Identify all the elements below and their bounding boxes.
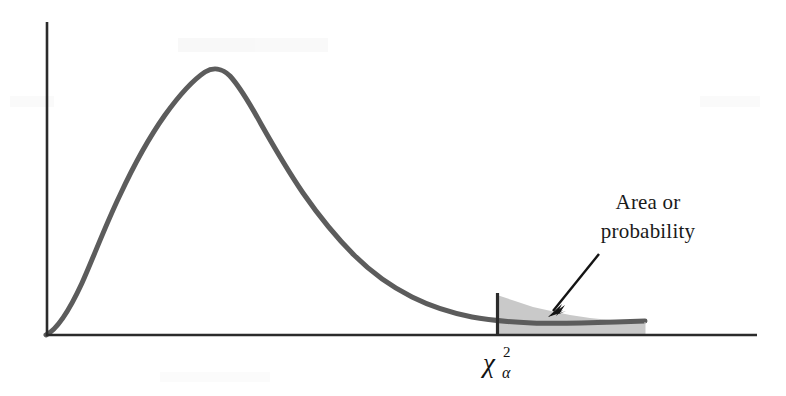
bleed-artifact-block-right	[700, 96, 760, 107]
bleed-artifact-block-top	[178, 38, 328, 52]
bleed-artifact-block-bottom	[160, 372, 270, 382]
chi-square-distribution-chart: Area or probability χ 2 α	[0, 0, 786, 396]
chi-superscript-two: 2	[503, 344, 511, 360]
annotation-line-2: probability	[601, 219, 696, 243]
annotation-line-1: Area or	[616, 190, 681, 214]
chi-square-figure-container: Area or probability χ 2 α	[0, 0, 786, 396]
chi-symbol: χ	[480, 348, 496, 378]
chi-subscript-alpha: α	[502, 364, 511, 381]
